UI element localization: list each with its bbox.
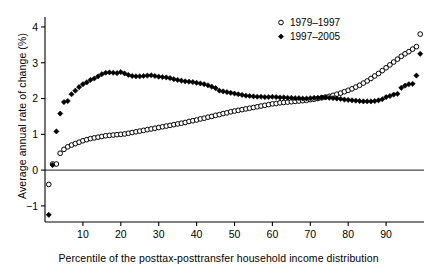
data-point-open-circle	[58, 151, 63, 156]
y-tick-label: 1	[32, 128, 38, 140]
data-point-filled-diamond	[69, 92, 74, 97]
x-tick-label: 90	[380, 228, 392, 240]
legend-marker-filled-diamond	[278, 34, 283, 39]
series-1979-1997-points	[46, 32, 422, 187]
data-point-filled-diamond	[54, 129, 59, 134]
y-axis-title: Average annual rate of change (%)	[16, 31, 28, 201]
y-tick-label: 2	[32, 92, 38, 104]
y-tick-label: 0	[32, 164, 38, 176]
x-axis-title: Percentile of the posttax-posttransfer h…	[0, 252, 437, 264]
x-tick-label: 50	[229, 228, 241, 240]
x-tick-label: 10	[77, 228, 89, 240]
x-tick-label: 40	[191, 228, 203, 240]
data-point-open-circle	[46, 182, 51, 187]
x-tick-label: 70	[304, 228, 316, 240]
data-point-open-circle	[418, 32, 423, 37]
x-tick-label: 60	[267, 228, 279, 240]
data-point-filled-diamond	[418, 51, 423, 56]
x-tick-label: 80	[342, 228, 354, 240]
legend-label: 1979–1997	[290, 17, 340, 28]
data-point-filled-diamond	[58, 111, 63, 116]
data-point-filled-diamond	[410, 81, 415, 86]
chart-legend: 1979–19971997–2005	[278, 17, 340, 42]
y-tick-label: 3	[32, 57, 38, 69]
x-tick-label: 30	[153, 228, 165, 240]
axis-layer: −101234102030405060708090	[26, 17, 424, 240]
chart-figure: −101234102030405060708090 1979–19971997–…	[0, 0, 437, 273]
scatter-plot: −101234102030405060708090 1979–19971997–…	[0, 0, 437, 273]
data-point-filled-diamond	[395, 91, 400, 96]
legend-label: 1997–2005	[290, 31, 340, 42]
x-tick-label: 20	[115, 228, 127, 240]
data-point-filled-diamond	[46, 212, 51, 217]
y-tick-label: 4	[32, 21, 38, 33]
y-tick-label: −1	[26, 200, 38, 212]
data-point-filled-diamond	[73, 88, 78, 93]
data-point-open-circle	[414, 44, 419, 49]
legend-marker-open-circle	[279, 20, 284, 25]
data-point-filled-diamond	[414, 73, 419, 78]
